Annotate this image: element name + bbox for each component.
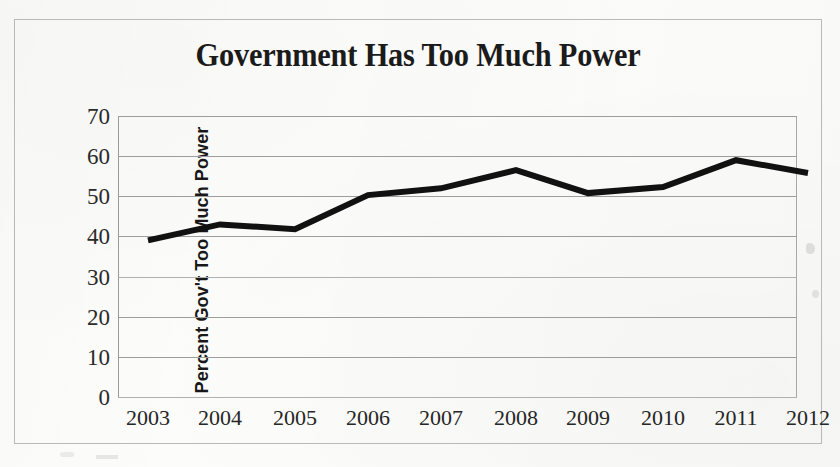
x-tick-2006: 2006 [332, 405, 404, 431]
y-tick-40: 40 [68, 225, 110, 248]
y-tick-70: 70 [68, 105, 110, 128]
x-tick-2008: 2008 [480, 405, 552, 431]
gridline-0 [118, 397, 797, 398]
y-tick-50: 50 [68, 185, 110, 208]
y-tick-0: 0 [68, 386, 110, 409]
scanned-page: Government Has Too Much Power 70 60 50 4… [0, 0, 840, 467]
y-tick-10: 10 [68, 346, 110, 369]
x-tick-2004: 2004 [184, 405, 256, 431]
series-line-percent-gov-too-much-power [148, 160, 808, 240]
y-tick-20: 20 [68, 306, 110, 329]
x-tick-2009: 2009 [552, 405, 624, 431]
x-tick-2012: 2012 [772, 405, 840, 431]
y-tick-30: 30 [68, 266, 110, 289]
plot-area [118, 116, 797, 397]
x-tick-2007: 2007 [405, 405, 477, 431]
y-axis-tick-labels: 70 60 50 40 30 20 10 0 [62, 0, 110, 467]
y-tick-60: 60 [68, 145, 110, 168]
x-axis-tick-labels: 2003 2004 2005 2006 2007 2008 2009 2010 … [118, 405, 797, 437]
series-line-chart [118, 116, 797, 397]
x-tick-2003: 2003 [112, 405, 184, 431]
x-tick-2010: 2010 [627, 405, 699, 431]
x-tick-2005: 2005 [259, 405, 331, 431]
chart-title: Government Has Too Much Power [46, 36, 789, 74]
x-tick-2011: 2011 [700, 405, 772, 431]
